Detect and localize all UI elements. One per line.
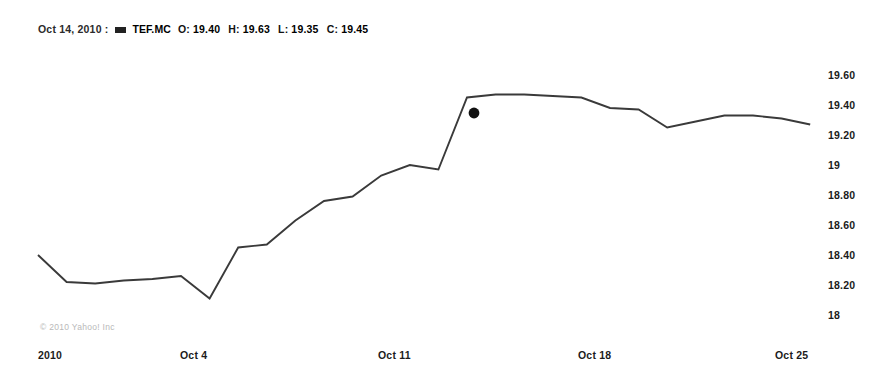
x-axis-tick: 2010 xyxy=(38,349,62,361)
x-axis: 2010Oct 4Oct 11Oct 18Oct 25 xyxy=(0,0,895,387)
stock-chart: Oct 14, 2010 : TEF.MC O: 19.40 H: 19.63 … xyxy=(0,0,895,387)
x-axis-tick: Oct 18 xyxy=(578,349,611,361)
x-axis-tick: Oct 11 xyxy=(378,349,411,361)
copyright-watermark: © 2010 Yahoo! Inc xyxy=(40,322,115,332)
x-axis-tick: Oct 25 xyxy=(775,349,808,361)
x-axis-tick: Oct 4 xyxy=(180,349,207,361)
